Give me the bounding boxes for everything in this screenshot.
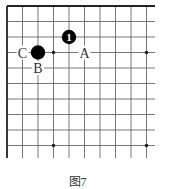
star-point	[145, 51, 149, 55]
star-point	[52, 144, 56, 148]
figure-caption: 图7	[0, 172, 155, 189]
stone-move-number: 1	[66, 31, 72, 43]
marker-label: A	[79, 46, 90, 61]
black-stone	[31, 45, 45, 59]
star-point	[145, 144, 149, 148]
marker-label: C	[18, 46, 27, 61]
go-board: CAB1	[0, 0, 173, 170]
marker-label: B	[33, 61, 42, 76]
star-point	[52, 51, 56, 55]
